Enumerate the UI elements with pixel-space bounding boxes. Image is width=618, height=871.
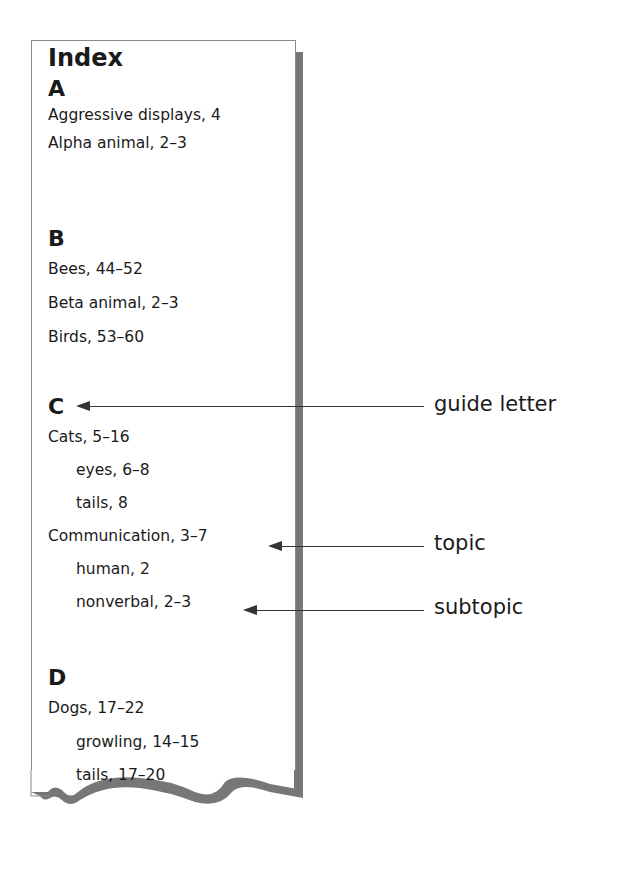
callout-label-topic: topic xyxy=(434,531,486,555)
subtopic-entry: nonverbal, 2–3 xyxy=(76,593,191,611)
index-page xyxy=(31,40,296,791)
topic-entry: Communication, 3–7 xyxy=(48,527,208,545)
guide-letter-c: C xyxy=(48,394,64,419)
subtopic-entry: eyes, 6–8 xyxy=(76,461,150,479)
index-title: Index xyxy=(48,44,123,72)
topic-entry: Alpha animal, 2–3 xyxy=(48,134,187,152)
topic-entry: Dogs, 17–22 xyxy=(48,699,144,717)
guide-letter-d: D xyxy=(48,665,66,690)
subtopic-entry: tails, 8 xyxy=(76,494,128,512)
callout-line-subtopic xyxy=(255,610,424,611)
topic-entry: Bees, 44–52 xyxy=(48,260,143,278)
guide-letter-b: B xyxy=(48,226,65,251)
callout-line-topic xyxy=(280,546,424,547)
guide-letter-a: A xyxy=(48,76,65,101)
topic-entry: Cats, 5–16 xyxy=(48,428,130,446)
subtopic-entry: tails, 17–20 xyxy=(76,766,165,784)
callout-line-guide-letter xyxy=(88,406,424,407)
topic-entry: Birds, 53–60 xyxy=(48,328,144,346)
callout-label-subtopic: subtopic xyxy=(434,595,523,619)
topic-entry: Beta animal, 2–3 xyxy=(48,294,179,312)
subtopic-entry: growling, 14–15 xyxy=(76,733,199,751)
topic-entry: Aggressive displays, 4 xyxy=(48,106,221,124)
callout-label-guide-letter: guide letter xyxy=(434,392,556,416)
subtopic-entry: human, 2 xyxy=(76,560,150,578)
